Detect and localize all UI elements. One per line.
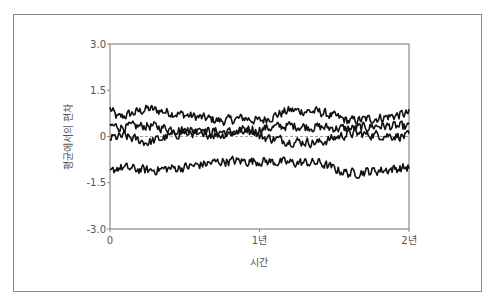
x-axis-label: 시간 bbox=[250, 257, 268, 268]
x-tick-label: 2년 bbox=[401, 235, 416, 246]
data-series-line bbox=[110, 156, 409, 178]
x-axis: 01년2년 bbox=[107, 229, 417, 246]
y-tick-label: 3.0 bbox=[90, 39, 106, 50]
y-tick-label: -3.0 bbox=[86, 224, 106, 235]
series-layer bbox=[110, 105, 409, 178]
x-tick-label: 0 bbox=[107, 235, 113, 246]
y-axis-label: 평균에서의 편차 bbox=[63, 104, 74, 170]
y-axis: 3.01.50-1.5-3.0 bbox=[86, 39, 110, 235]
x-tick-label: 1년 bbox=[252, 235, 267, 246]
chart: 3.01.50-1.5-3.0 01년2년 시간 평균에서의 편차 bbox=[0, 0, 496, 305]
plot-area bbox=[110, 44, 409, 229]
y-tick-label: 1.5 bbox=[90, 85, 106, 96]
y-tick-label: -1.5 bbox=[86, 177, 106, 188]
y-tick-label: 0 bbox=[100, 131, 106, 142]
